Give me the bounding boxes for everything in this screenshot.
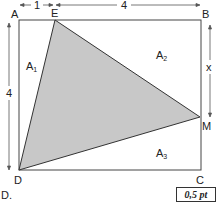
item-label: D. bbox=[1, 190, 12, 201]
triangle-DEM bbox=[19, 20, 200, 170]
dimension-EB bbox=[56, 4, 200, 7]
vertex-label-D: D bbox=[14, 175, 22, 186]
dimension-label-AE: 1 bbox=[34, 0, 40, 11]
vertex-label-E: E bbox=[51, 8, 58, 19]
region-label-A1: A1 bbox=[26, 61, 37, 73]
dimension-label-EB: 4 bbox=[121, 0, 127, 11]
region-label-A3: A3 bbox=[156, 148, 167, 160]
vertex-label-M: M bbox=[202, 121, 211, 132]
points-badge: 0,5 pt bbox=[176, 187, 216, 202]
region-label-A2: A2 bbox=[156, 50, 167, 62]
geometry-figure bbox=[0, 0, 217, 202]
dimension-label-AD: 4 bbox=[6, 88, 12, 99]
dimension-label-BM: x bbox=[206, 62, 212, 73]
vertex-label-A: A bbox=[11, 9, 18, 20]
vertex-label-B: B bbox=[202, 9, 209, 20]
vertex-label-C: C bbox=[196, 175, 204, 186]
